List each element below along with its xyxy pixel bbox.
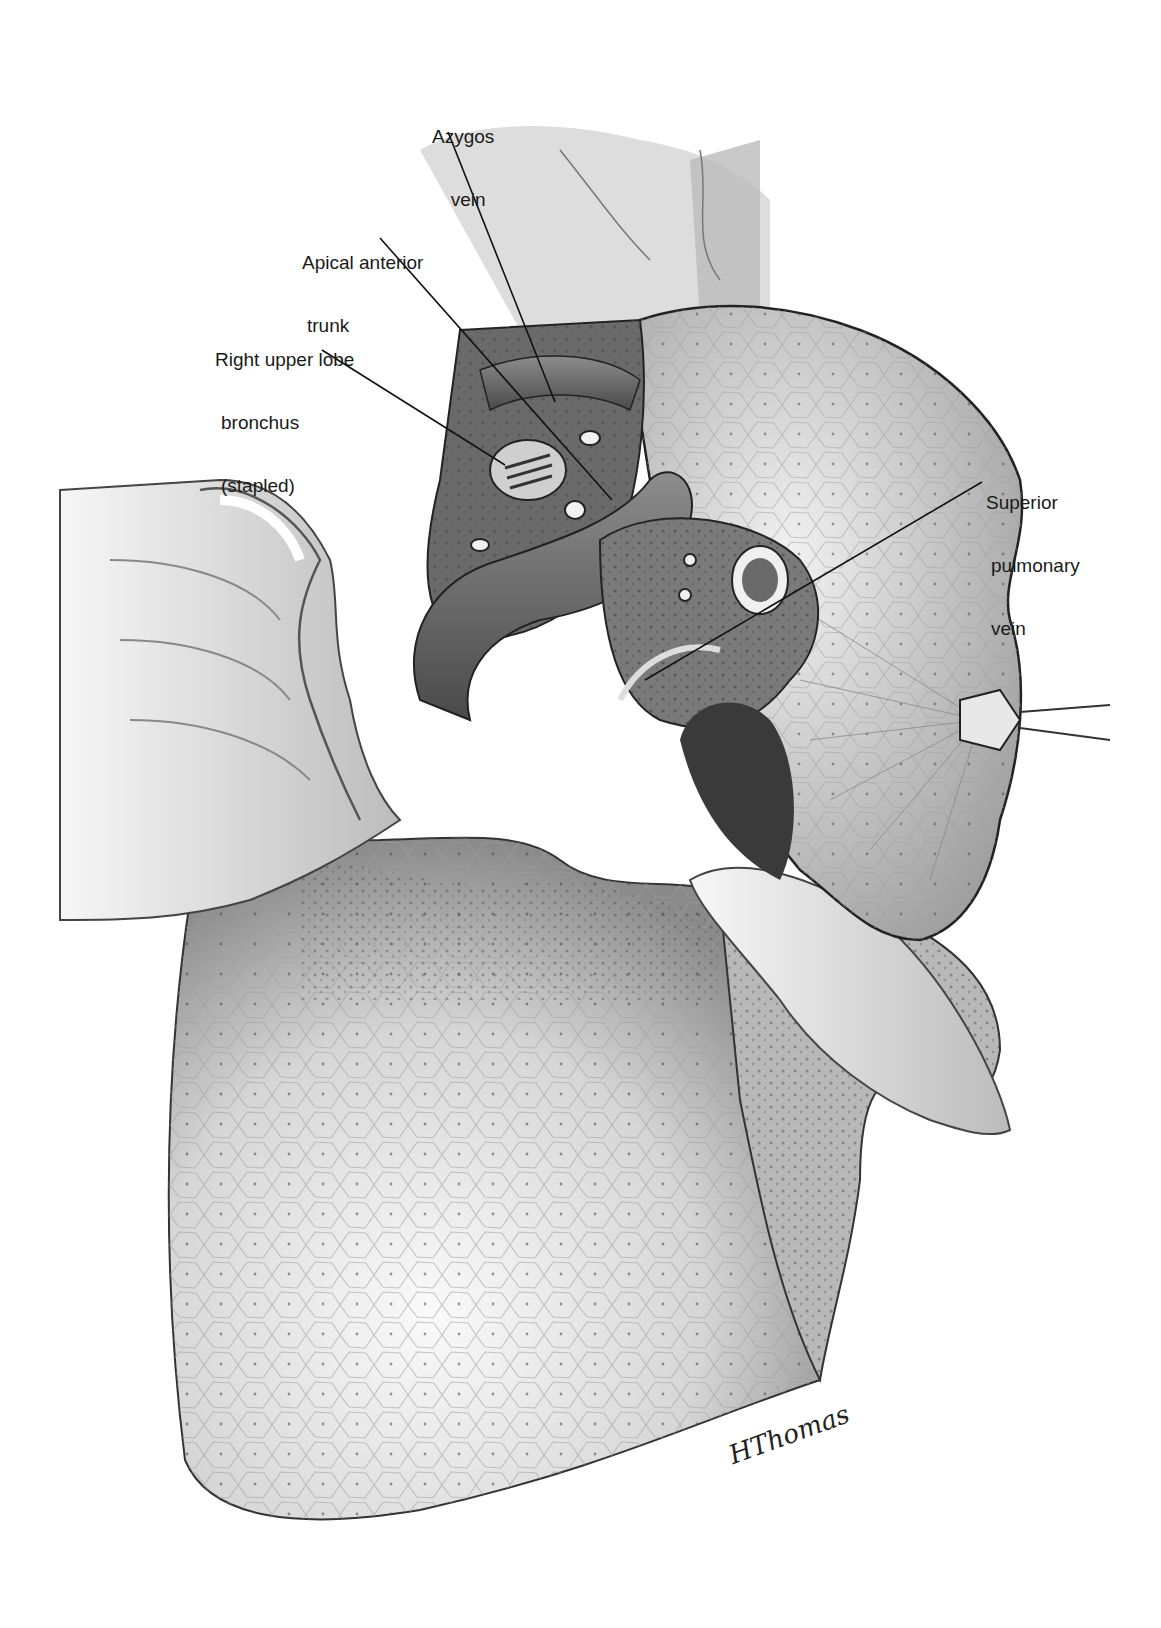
label-azygos-vein: Azygos vein (432, 84, 494, 231)
label-line: vein (986, 618, 1080, 639)
label-line: Right upper lobe (215, 349, 354, 370)
anatomy-illustration (0, 0, 1161, 1628)
label-right-upper-lobe-bronchus: Right upper lobe bronchus (stapled) (215, 307, 354, 517)
label-line: Apical anterior (302, 252, 423, 273)
label-line: pulmonary (986, 555, 1080, 576)
label-line: (stapled) (215, 475, 354, 496)
label-line: Azygos (432, 126, 494, 147)
label-line: Superior (986, 492, 1080, 513)
label-line: bronchus (215, 412, 354, 433)
label-superior-pulmonary-vein: Superior pulmonary vein (986, 450, 1080, 660)
label-line: vein (432, 189, 494, 210)
